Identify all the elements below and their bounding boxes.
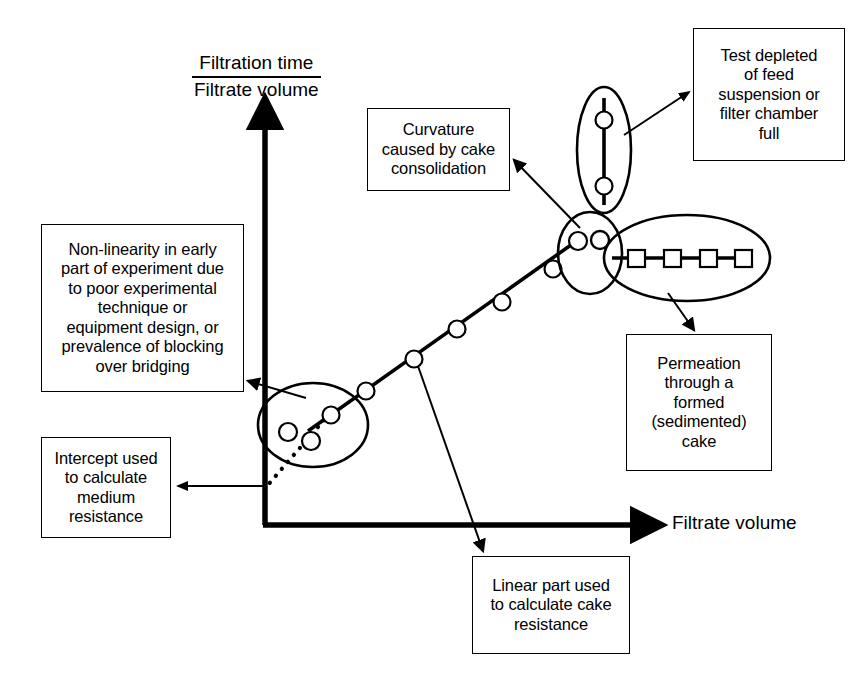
data-point-square-1 <box>628 250 645 267</box>
linear-fit-line <box>308 240 578 431</box>
data-point-linear-1 <box>323 407 340 424</box>
region-early-nonlinearity <box>258 383 368 467</box>
annotation-test-depleted: Test depleted of feed suspension or filt… <box>693 28 845 161</box>
annotation-permeation: Permeation through a formed (sedimented)… <box>626 334 772 471</box>
data-point-curvature <box>569 232 587 250</box>
annotation-non-linearity: Non-linearity in early part of experimen… <box>41 224 244 392</box>
region-test-depleted-group <box>577 87 631 213</box>
x-axis-label: Filtrate volume <box>672 512 797 534</box>
annotation-linear-part: Linear part used to calculate cake resis… <box>472 556 630 654</box>
data-point-early-2 <box>302 432 320 450</box>
data-point-rise-2 <box>596 178 613 195</box>
data-point-rise-1 <box>596 112 613 129</box>
data-point-square-4 <box>735 250 752 267</box>
leader-test-depleted <box>624 92 689 135</box>
y-axis-label-numerator: Filtration time <box>192 52 321 78</box>
y-axis-label: Filtration time Filtrate volume <box>192 52 321 102</box>
region-cake-consolidation <box>558 212 622 294</box>
data-point-linear-4 <box>449 321 466 338</box>
leader-permeation <box>668 293 694 330</box>
data-point-linear-5 <box>494 294 511 311</box>
region-permeation-group <box>604 215 770 301</box>
y-axis-label-denominator: Filtrate volume <box>192 78 321 102</box>
data-point-square-3 <box>700 250 717 267</box>
leader-curvature <box>514 160 580 228</box>
data-point-linear-2 <box>358 383 375 400</box>
data-point-early-1 <box>279 423 297 441</box>
annotation-curvature: Curvature caused by cake consolidation <box>367 108 510 191</box>
data-point-linear-3 <box>406 351 423 368</box>
figure-canvas: Filtration time Filtrate volume Filtrate… <box>0 0 860 675</box>
data-point-square-2 <box>664 250 681 267</box>
annotation-intercept: Intercept used to calculate medium resis… <box>41 437 171 538</box>
